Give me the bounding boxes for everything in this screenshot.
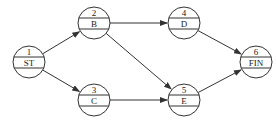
edge-1-3 [43, 70, 80, 91]
node-number: 2 [92, 8, 97, 18]
node-name: FIN [249, 58, 264, 68]
network-diagram: 1ST2B3C4D5E6FIN [0, 0, 276, 124]
node-name: C [91, 96, 97, 106]
edges [43, 23, 241, 100]
node-fin: 6FIN [240, 46, 272, 78]
edge-1-2 [43, 32, 80, 54]
node-number: 6 [254, 47, 259, 57]
node-number: 4 [182, 8, 187, 18]
node-number: 5 [182, 85, 187, 95]
edge-4-6 [198, 31, 241, 54]
node-b: 2B [78, 7, 110, 39]
node-st: 1ST [13, 46, 45, 78]
node-number: 1 [27, 47, 32, 57]
node-d: 4D [168, 7, 200, 39]
node-name: B [91, 19, 97, 29]
node-name: ST [24, 58, 35, 68]
node-name: E [181, 96, 187, 106]
node-number: 3 [92, 85, 97, 95]
node-name: D [181, 19, 188, 29]
node-e: 5E [168, 84, 200, 116]
edge-5-6 [198, 70, 241, 93]
node-c: 3C [78, 84, 110, 116]
edge-2-5 [106, 33, 171, 89]
